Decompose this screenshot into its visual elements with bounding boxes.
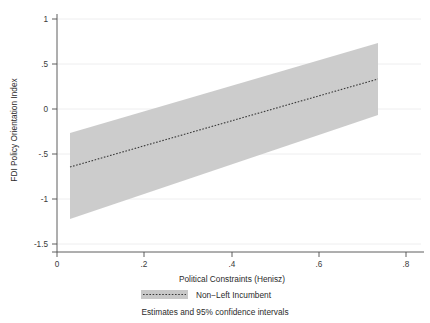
x-axis-ticks	[57, 252, 406, 257]
y-axis-title: FDI Policy Orientation Index	[9, 78, 19, 182]
y-tick-label-1: 1	[43, 15, 48, 24]
legend-swatch-band	[141, 290, 188, 299]
x-tick-label-0: 0	[55, 260, 60, 269]
y-axis-ticks	[52, 19, 57, 244]
y-tick-labels: 1 .5 0 -.5 -1 -1.5	[34, 15, 49, 249]
chart-figure: 1 .5 0 -.5 -1 -1.5 0 .2 .4 .6 .8 Politic…	[0, 0, 430, 323]
x-tick-label-0.6: .6	[316, 260, 323, 269]
y-tick-label-0.5: .5	[41, 60, 48, 69]
legend-label-non-left-incumbent: Non−Left Incumbent	[196, 290, 272, 300]
chart-note: Estimates and 95% confidence intervals	[141, 307, 288, 317]
x-axis-title: Political Constraints (Henisz)	[179, 274, 285, 284]
x-tick-labels: 0 .2 .4 .6 .8	[55, 260, 410, 269]
chart-svg: 1 .5 0 -.5 -1 -1.5 0 .2 .4 .6 .8 Politic…	[0, 0, 430, 323]
chart-legend: Non−Left Incumbent	[141, 290, 272, 300]
y-tick-label--1.5: -1.5	[34, 240, 49, 249]
x-tick-label-0.2: .2	[141, 260, 148, 269]
y-tick-label--0.5: -.5	[38, 150, 48, 159]
confidence-band-non-left-incumbent	[70, 43, 378, 219]
x-tick-label-0.4: .4	[229, 260, 236, 269]
y-tick-label--1: -1	[41, 195, 49, 204]
x-tick-label-0.8: .8	[403, 260, 410, 269]
y-tick-label-0: 0	[43, 105, 48, 114]
